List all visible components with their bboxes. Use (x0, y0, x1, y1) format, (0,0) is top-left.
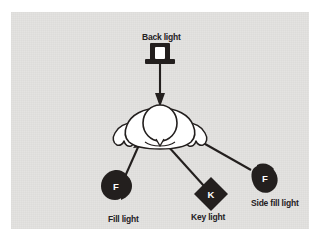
light-fixture-back[interactable]: B (145, 43, 175, 64)
label-fill-light: Fill light (108, 215, 139, 224)
label-key-light: Key light (191, 213, 225, 222)
lighting-diagram: B F K F (11, 12, 309, 229)
light-fixture-fill[interactable]: F (101, 170, 132, 200)
diagram-panel: B F K F Back light Fill light Ke (11, 12, 309, 229)
label-side-fill-light: Side fill light (251, 199, 299, 208)
label-back-light: Back light (142, 33, 181, 42)
side-fill-light-glyph: F (262, 173, 268, 184)
key-light-glyph: K (208, 189, 215, 200)
back-light-glyph: B (157, 48, 164, 59)
light-fixture-side-fill[interactable]: F (251, 164, 277, 193)
subject-head-from-above (113, 105, 206, 149)
fill-light-glyph: F (113, 181, 119, 192)
figure-root: B F K F Back light Fill light Ke (0, 0, 320, 243)
beam-back-light (155, 63, 165, 107)
